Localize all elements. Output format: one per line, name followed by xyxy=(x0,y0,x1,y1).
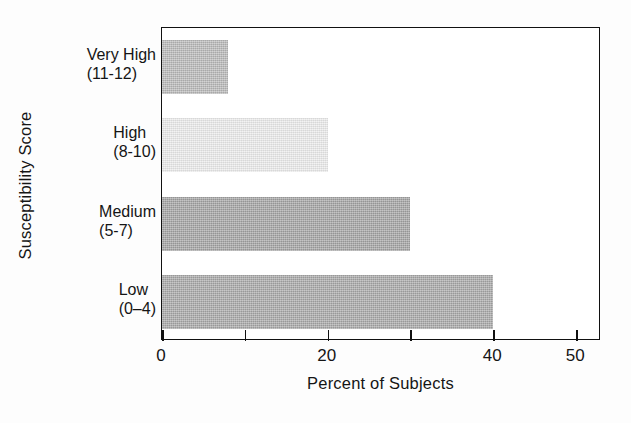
y-axis-tick-label: Low(0–4) xyxy=(119,281,156,319)
bar xyxy=(162,118,328,172)
y-axis-tick-label: High(8-10) xyxy=(113,124,156,162)
category-range: (5-7) xyxy=(99,222,156,241)
category-name: High xyxy=(113,124,156,143)
bar xyxy=(162,197,410,251)
x-axis-tick-label: 20 xyxy=(317,346,336,366)
category-range: (0–4) xyxy=(119,300,156,319)
x-axis-tick xyxy=(410,330,412,341)
y-axis-title: Susceptibility Score xyxy=(10,45,42,325)
y-axis-title-text: Susceptibility Score xyxy=(17,111,36,259)
x-axis-tick-label: 0 xyxy=(156,346,165,366)
plot-area xyxy=(161,27,600,340)
x-axis-title: Percent of Subjects xyxy=(161,374,600,393)
category-name: Medium xyxy=(99,203,156,222)
category-name: Low xyxy=(119,281,156,300)
category-range: (8-10) xyxy=(113,143,156,162)
x-axis-tick xyxy=(493,330,495,341)
x-axis-tick-label: 50 xyxy=(566,346,585,366)
y-axis-tick-labels: Very High(11-12)High(8-10)Medium(5-7)Low… xyxy=(44,27,158,340)
y-axis-tick-label: Very High(11-12) xyxy=(87,46,156,84)
x-axis-tick xyxy=(245,330,247,341)
category-range: (11-12) xyxy=(87,65,156,84)
x-axis-tick xyxy=(576,330,578,341)
y-axis-tick-label: Medium(5-7) xyxy=(99,203,156,241)
x-axis-tick xyxy=(162,330,164,341)
category-name: Very High xyxy=(87,46,156,65)
bar xyxy=(162,275,493,329)
bar xyxy=(162,40,228,94)
x-axis-tick xyxy=(328,330,330,341)
bar-chart-figure: Susceptibility Score Very High(11-12)Hig… xyxy=(0,0,631,423)
x-axis-tick-label: 40 xyxy=(483,346,502,366)
